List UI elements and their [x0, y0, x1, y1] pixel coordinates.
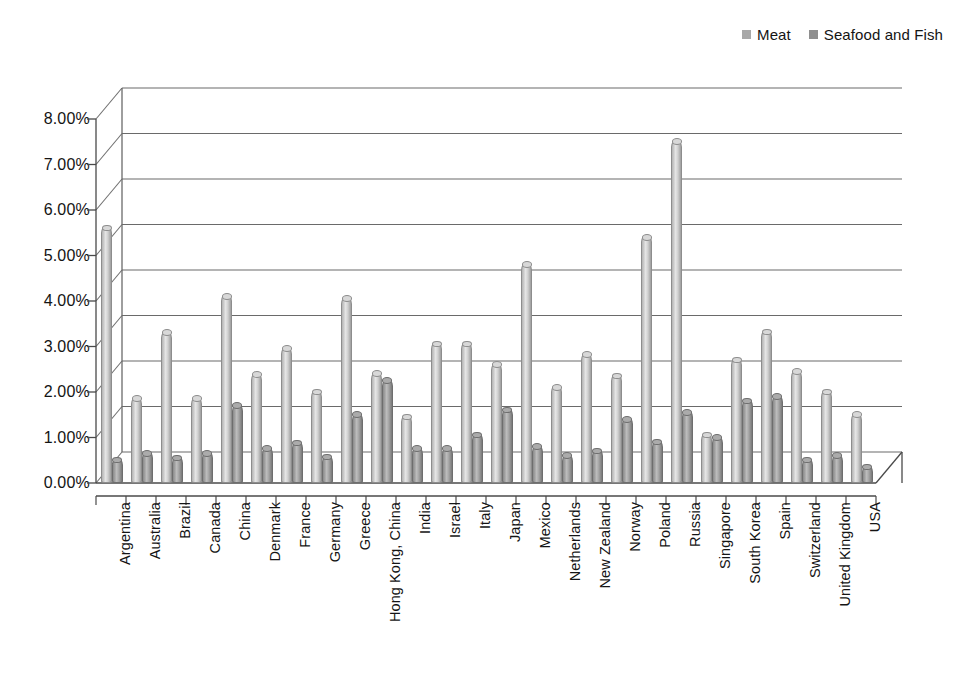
- bar-cap: [822, 389, 832, 396]
- square-marker-icon: [809, 30, 818, 39]
- value-axis-tick-label: 2.00%: [44, 383, 90, 401]
- category-axis-tick-label: France: [297, 502, 313, 548]
- category-axis-tick-label: Russia: [687, 502, 703, 547]
- legend-label-meat: Meat: [757, 26, 791, 43]
- category-axis-tick-label: USA: [867, 502, 883, 532]
- category-axis-tick-label: Switzerland: [807, 502, 823, 578]
- value-axis-tick-label: 0.00%: [44, 474, 90, 492]
- category-axis-tick-label: Mexico: [537, 502, 553, 549]
- value-axis-tick-label: 1.00%: [44, 429, 90, 447]
- bar-cap: [622, 416, 632, 423]
- category-axis-tick-label: Greece: [357, 502, 373, 550]
- category-axis-tick-label: Poland: [657, 502, 673, 548]
- bar-cap: [372, 370, 382, 377]
- category-axis-labels: ArgentinaAustraliaBrazilCanadaChinaDenma…: [96, 498, 926, 678]
- category-axis-tick-label: New Zealand: [597, 502, 613, 589]
- category-axis-tick-label: United Kingdom: [837, 502, 853, 607]
- legend-item-meat[interactable]: Meat: [742, 26, 791, 43]
- bar-meat[interactable]: [671, 140, 682, 483]
- bar-cap: [282, 345, 292, 352]
- bar-cap: [852, 411, 862, 418]
- bar-cap: [762, 329, 772, 336]
- bar-cap: [132, 395, 142, 402]
- category-axis-tick-label: Netherlands: [567, 502, 583, 581]
- bar-cap: [702, 432, 712, 439]
- bar-cap: [252, 371, 262, 378]
- bar-cap: [192, 395, 202, 402]
- category-axis-tick-label: Denmark: [267, 502, 283, 562]
- bar-cap: [342, 295, 352, 302]
- bar-cap: [502, 407, 512, 414]
- value-axis-tick-label: 7.00%: [44, 156, 90, 174]
- category-axis-tick-label: Singapore: [717, 502, 733, 569]
- value-axis-tick-label: 5.00%: [44, 247, 90, 265]
- plot-area: [96, 83, 902, 484]
- category-axis-tick-label: Italy: [477, 502, 493, 529]
- legend-item-seafood-and-fish[interactable]: Seafood and Fish: [809, 26, 943, 43]
- bar-cap: [462, 341, 472, 348]
- square-marker-icon: [742, 30, 751, 39]
- bar-cap: [642, 234, 652, 241]
- bar-cap: [102, 225, 112, 232]
- bar-cap: [612, 373, 622, 380]
- category-axis: [96, 443, 926, 503]
- category-axis-tick-label: Germany: [327, 502, 343, 562]
- bar-cap: [382, 377, 392, 384]
- category-axis-tick-label: Australia: [147, 502, 163, 559]
- bar-cap: [522, 261, 532, 268]
- bar-cap: [222, 293, 232, 300]
- bar-cap: [492, 361, 502, 368]
- value-axis-tick-label: 8.00%: [44, 110, 90, 128]
- bar-cap: [472, 432, 482, 439]
- bar-cap: [162, 329, 172, 336]
- value-axis-tick-label: 3.00%: [44, 338, 90, 356]
- bar-cap: [732, 357, 742, 364]
- category-axis-tick-label: Norway: [627, 502, 643, 552]
- bar-cap: [672, 138, 682, 145]
- bar-cap: [792, 368, 802, 375]
- bar-cap: [772, 393, 782, 400]
- category-axis-tick-label: Canada: [207, 502, 223, 553]
- bar-cap: [352, 411, 362, 418]
- bar-series-layer: [96, 83, 902, 484]
- bar-cap: [552, 384, 562, 391]
- value-axis-labels: 0.00%1.00%2.00%3.00%4.00%5.00%6.00%7.00%…: [0, 83, 90, 484]
- bar-cap: [742, 398, 752, 405]
- bar-cap: [432, 341, 442, 348]
- category-axis-tick-label: Israel: [447, 502, 463, 538]
- chart-container: Meat Seafood and Fish 0.00%1.00%2.00%3.0…: [0, 0, 961, 681]
- value-axis-tick-label: 4.00%: [44, 292, 90, 310]
- bar-cap: [402, 414, 412, 421]
- category-axis-tick-label: India: [417, 502, 433, 534]
- bar-cap: [582, 351, 592, 358]
- value-axis-tick-label: 6.00%: [44, 201, 90, 219]
- legend-label-seafood-and-fish: Seafood and Fish: [824, 26, 943, 43]
- bar-cap: [232, 402, 242, 409]
- bar-cap: [312, 389, 322, 396]
- category-axis-tick-label: Hong Kong, China: [387, 502, 403, 622]
- category-axis-tick-label: Spain: [777, 502, 793, 540]
- category-axis-tick-label: Argentina: [117, 502, 133, 565]
- category-axis-tick-label: China: [237, 502, 253, 540]
- bar-cap: [682, 409, 692, 416]
- category-axis-tick-label: South Korea: [747, 502, 763, 584]
- bar-cap: [712, 434, 722, 441]
- category-axis-tick-label: Japan: [507, 502, 523, 542]
- category-axis-tick-label: Brazil: [177, 502, 193, 539]
- chart-legend: Meat Seafood and Fish: [742, 26, 943, 43]
